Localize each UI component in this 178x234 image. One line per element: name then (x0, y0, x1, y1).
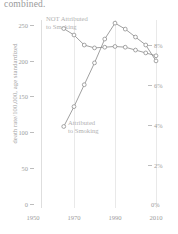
data-point-marker (154, 59, 158, 63)
data-point-marker (113, 45, 117, 49)
data-point-marker (82, 83, 86, 87)
data-point-marker (144, 43, 148, 47)
data-point-marker (72, 105, 76, 109)
data-point-marker (154, 54, 158, 58)
chart-container: combined. death rate/100,000, age standa… (0, 0, 178, 234)
data-point-marker (103, 37, 107, 41)
data-point-marker (72, 33, 76, 37)
plot-area (0, 0, 178, 234)
data-point-marker (62, 125, 66, 129)
data-point-marker (123, 45, 127, 49)
data-point-marker (93, 46, 97, 50)
data-point-marker (103, 45, 107, 49)
data-point-marker (62, 27, 66, 31)
data-point-marker (134, 35, 138, 39)
data-point-marker (113, 21, 117, 25)
data-point-marker (123, 27, 127, 31)
data-point-marker (144, 51, 148, 55)
data-point-marker (82, 43, 86, 47)
data-point-marker (93, 61, 97, 65)
data-point-marker (134, 48, 138, 52)
